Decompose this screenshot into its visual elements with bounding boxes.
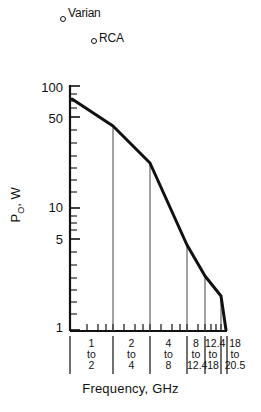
band-to: 4 [113, 360, 150, 371]
legend-label-varian: Varian [68, 6, 101, 20]
band-leader-lines [113, 126, 221, 331]
band-to: 2 [70, 360, 113, 371]
band-to: 18 [205, 360, 221, 371]
band-cell-1: 1 to 2 [70, 338, 113, 371]
x-axis-title: Frequency, GHz [0, 381, 261, 396]
y-axis-title-symbol: P [8, 214, 23, 223]
y-tick-label-100: 100 [25, 80, 63, 95]
y-tick-label-1: 1 [25, 320, 63, 335]
band-cell-2: 2 to 4 [113, 338, 150, 371]
legend-marker-varian [60, 16, 66, 22]
y-axis-title-subscript: O [16, 207, 26, 214]
band-to: 20.5 [221, 360, 249, 371]
y-tick-label-5: 5 [25, 232, 63, 247]
y-tick-label-10: 10 [25, 200, 63, 215]
legend-marker-rca [91, 38, 97, 44]
y-major-ticks [70, 86, 80, 330]
legend-label-rca: RCA [99, 31, 124, 45]
data-curve [72, 99, 226, 330]
band-cell-3: 4 to 8 [150, 338, 187, 371]
band-cell-6: 18 to 20.5 [221, 338, 249, 371]
y-axis-title: PO, W [8, 175, 26, 235]
band-to: 8 [150, 360, 187, 371]
band-to: 12.4 [187, 360, 205, 371]
band-cell-5: 12.4 to 18 [205, 338, 221, 371]
band-cell-4: 8 to 12.4 [187, 338, 205, 371]
y-tick-label-50: 50 [25, 111, 63, 126]
y-axis-title-unit: , W [8, 187, 23, 207]
